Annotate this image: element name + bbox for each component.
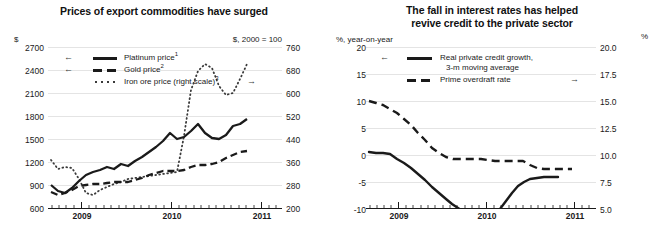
panel-export-commodity-prices: Prices of export commodities have surged… xyxy=(0,0,328,244)
y-left-tick-10: 10 xyxy=(328,98,366,107)
y-right-tick-280: 280 xyxy=(286,182,326,191)
y-left-tick-2700: 2700 xyxy=(0,44,44,53)
y-right-tick-7-5: 7.5 xyxy=(600,179,644,188)
y-left-tick-0: 0 xyxy=(328,152,366,161)
legend-swatch-solid xyxy=(407,57,432,60)
legend-right: ← Real private credit growth, 3-m moving… xyxy=(380,53,610,85)
legend-item-credit-growth-line2: 3-m moving average xyxy=(380,63,610,73)
x-axis-minor-ticks-left xyxy=(52,205,276,208)
page-title-right: The fall in interest rates has helped re… xyxy=(328,4,656,29)
y-left-tick-1500: 1500 xyxy=(0,136,44,145)
legend-swatch-dashed-a xyxy=(407,79,416,82)
legend-label-iron-ore: Iron ore price (right scale)3 xyxy=(124,77,219,87)
y-right-tick-15-0: 15.0 xyxy=(600,98,644,107)
legend-swatch-dashed-b xyxy=(421,79,430,82)
x-tick-2010: 2010 xyxy=(147,212,197,221)
legend-item-prime-overdraft: Prime overdraft rate → xyxy=(380,75,610,85)
arrow-right-icon: → xyxy=(247,77,256,86)
x-tick-2009: 2009 xyxy=(374,212,424,221)
y-left-tick-neg5: -5 xyxy=(328,179,366,188)
x-tick-2010: 2010 xyxy=(462,212,512,221)
y-right-tick-760: 760 xyxy=(286,44,326,53)
arrow-left-icon: ← xyxy=(64,53,73,62)
page-title-left: Prices of export commodities have surged xyxy=(0,5,328,18)
y-right-tick-680: 680 xyxy=(286,67,326,76)
series-prime-overdraft-rate xyxy=(369,101,572,169)
y-right-tick-5-0: 5.0 xyxy=(600,206,644,215)
legend-text-iron-ore: Iron ore price (right scale) xyxy=(124,77,215,86)
legend-swatch-dashed-b xyxy=(107,69,116,72)
x-tick-2011: 2011 xyxy=(550,212,600,221)
legend-label-credit-growth-cont: 3-m moving average xyxy=(446,63,519,73)
legend-item-gold: ← Gold price2 xyxy=(64,65,279,75)
series-platinum-price xyxy=(51,119,247,193)
y-right-tick-10-0: 10.0 xyxy=(600,152,644,161)
legend-label-credit-growth: Real private credit growth, xyxy=(440,53,533,63)
y-right-tick-12-5: 12.5 xyxy=(600,125,644,134)
legend-footnote-gold: 2 xyxy=(160,63,163,69)
y-left-tick-900: 900 xyxy=(0,182,44,191)
legend-item-iron-ore: Iron ore price (right scale)3 → xyxy=(64,77,279,87)
legend-swatch-dashed-a xyxy=(93,69,102,72)
two-panel-chart-figure: Prices of export commodities have surged… xyxy=(0,0,656,244)
legend-swatch-dotted xyxy=(93,81,117,83)
y-right-tick-600: 600 xyxy=(286,90,326,99)
legend-item-platinum: ← Platinum price1 xyxy=(64,53,279,63)
legend-text-gold: Gold price xyxy=(124,65,160,74)
arrow-right-icon: → xyxy=(570,75,579,84)
panel-interest-rates-credit: The fall in interest rates has helped re… xyxy=(328,0,656,244)
y-right-tick-200: 200 xyxy=(286,205,326,214)
y-right-tick-440: 440 xyxy=(286,136,326,145)
y-left-tick-15: 15 xyxy=(328,71,366,80)
y-left-tick-600: 600 xyxy=(0,205,44,214)
x-tick-2011: 2011 xyxy=(237,212,287,221)
series-real-private-credit-growth xyxy=(369,152,558,209)
page-title-right-line1: The fall in interest rates has helped xyxy=(406,4,578,16)
right-axis-unit-label: % xyxy=(641,32,648,41)
y-left-tick-1200: 1200 xyxy=(0,159,44,168)
y-right-tick-20-0: 20.0 xyxy=(600,44,644,53)
legend-item-credit-growth: ← Real private credit growth, xyxy=(380,53,610,63)
y-left-tick-2100: 2100 xyxy=(0,90,44,99)
x-axis-minor-ticks-right xyxy=(370,205,589,208)
legend-left: ← Platinum price1 ← Gold price2 Iron ore… xyxy=(64,53,279,87)
legend-footnote-platinum: 1 xyxy=(175,51,178,57)
y-left-tick-5: 5 xyxy=(328,125,366,134)
legend-swatch-solid xyxy=(93,57,117,60)
y-right-tick-520: 520 xyxy=(286,113,326,122)
left-axis-unit-label: $ xyxy=(14,35,18,44)
legend-label-platinum: Platinum price1 xyxy=(124,53,178,63)
y-left-tick-1800: 1800 xyxy=(0,113,44,122)
x-axis-major-ticks-left xyxy=(82,202,262,208)
legend-label-prime-overdraft: Prime overdraft rate xyxy=(440,75,511,85)
x-axis-major-ticks-right xyxy=(399,202,575,208)
y-left-tick-20: 20 xyxy=(328,44,366,53)
x-tick-2009: 2009 xyxy=(57,212,107,221)
legend-footnote-iron-ore: 3 xyxy=(215,75,218,81)
legend-text-platinum: Platinum price xyxy=(124,53,175,62)
y-left-tick-neg10: -10 xyxy=(328,206,366,215)
arrow-left-icon: ← xyxy=(380,53,389,62)
legend-label-gold: Gold price2 xyxy=(124,65,164,75)
right-axis-unit-label: $, 2000 = 100 xyxy=(233,35,282,44)
y-left-tick-2400: 2400 xyxy=(0,67,44,76)
y-right-tick-360: 360 xyxy=(286,159,326,168)
series-gold-price xyxy=(51,151,247,195)
page-title-right-line2: revive credit to the private sector xyxy=(411,17,573,29)
arrow-left-icon: ← xyxy=(64,65,73,74)
